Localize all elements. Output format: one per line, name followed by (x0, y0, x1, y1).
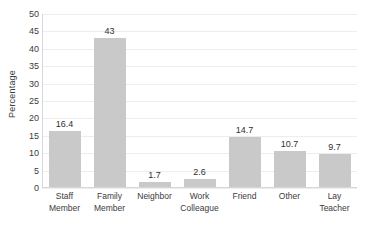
x-axis-category-label: Neighbor (132, 191, 177, 203)
plot-area: 16.4431.72.614.710.79.7 (42, 14, 357, 188)
y-axis-tick-label: 25 (3, 97, 39, 106)
bar (274, 151, 306, 188)
x-axis-category-label: WorkColleague (177, 191, 222, 214)
bars-layer: 16.4431.72.614.710.79.7 (42, 14, 357, 188)
bar (94, 38, 126, 188)
y-axis-tick-label: 15 (3, 131, 39, 140)
x-axis-category-label: Friend (222, 191, 267, 203)
y-axis-tick-label: 35 (3, 62, 39, 71)
x-axis-category-labels: StaffMemberFamilyMemberNeighborWorkColle… (42, 191, 357, 227)
y-axis-tick-label: 5 (3, 166, 39, 175)
x-axis-category-label: Other (267, 191, 312, 203)
bar-group: 16.4 (42, 14, 87, 188)
bar-group: 1.7 (132, 14, 177, 188)
x-axis-category-label: FamilyMember (87, 191, 132, 214)
y-axis-tick-label: 30 (3, 79, 39, 88)
x-axis-line (42, 187, 357, 188)
y-axis-tick-label: 10 (3, 149, 39, 158)
bar-value-label: 10.7 (281, 140, 299, 149)
y-axis-tick-label: 40 (3, 44, 39, 53)
bar-group: 2.6 (177, 14, 222, 188)
bar-value-label: 9.7 (328, 143, 341, 152)
x-axis-category-label: StaffMember (42, 191, 87, 214)
bar-value-label: 16.4 (56, 120, 74, 129)
y-axis-tick-label: 50 (3, 10, 39, 19)
bar-value-label: 2.6 (193, 168, 206, 177)
bar (229, 137, 261, 188)
bar (319, 154, 351, 188)
bar-group: 14.7 (222, 14, 267, 188)
bar-group: 43 (87, 14, 132, 188)
y-axis-line (42, 14, 43, 188)
bar-group: 9.7 (312, 14, 357, 188)
bar-value-label: 1.7 (148, 171, 161, 180)
gridline (42, 188, 357, 189)
bar-chart: Percentage 50454035302520151050 16.4431.… (0, 0, 365, 229)
y-axis-tick-labels: 50454035302520151050 (0, 14, 39, 188)
y-axis-tick-label: 0 (3, 184, 39, 193)
bar (49, 131, 81, 188)
bar-value-label: 14.7 (236, 126, 254, 135)
x-axis-category-label: Lay Teacher (312, 191, 357, 214)
bar-group: 10.7 (267, 14, 312, 188)
y-axis-tick-label: 20 (3, 114, 39, 123)
y-axis-tick-label: 45 (3, 27, 39, 36)
bar-value-label: 43 (104, 27, 114, 36)
